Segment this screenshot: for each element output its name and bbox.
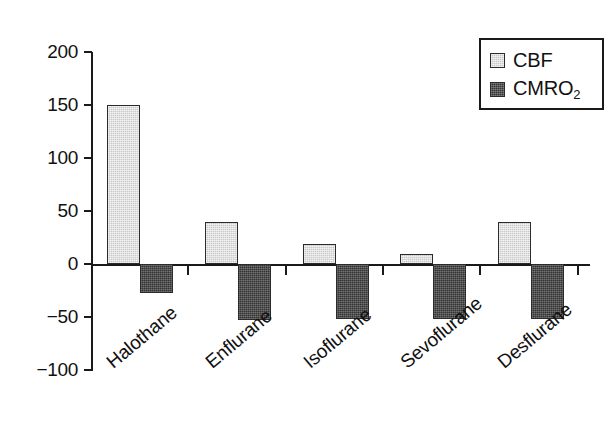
y-tick-label: −100 xyxy=(18,360,78,379)
y-tick-mark xyxy=(84,104,92,106)
y-tick-mark xyxy=(84,316,92,318)
legend-item-cmro2: CMRO2 xyxy=(490,78,580,100)
y-tick-label: 200 xyxy=(18,42,78,61)
y-tick-mark xyxy=(84,157,92,159)
y-tick-mark xyxy=(84,263,92,265)
bar-enflurane-cbf xyxy=(205,222,238,264)
legend-swatch-cmro2-icon xyxy=(490,82,505,97)
bar-isoflurane-cbf xyxy=(303,244,336,264)
legend-swatch-cbf-icon xyxy=(490,53,505,68)
category-label-halothane: Halothane xyxy=(103,302,180,371)
y-tick-label-text: 100 xyxy=(22,148,78,167)
y-tick-label: 50 xyxy=(18,201,78,220)
y-tick-label-text: −100 xyxy=(22,360,78,379)
x-tick-mark xyxy=(577,266,579,275)
legend-label-cmro2-main: CMRO xyxy=(513,77,573,99)
y-tick-label-text: 50 xyxy=(22,201,78,220)
y-tick-mark xyxy=(84,369,92,371)
y-tick-label: 0 xyxy=(18,254,78,273)
x-tick-mark xyxy=(382,266,384,275)
y-tick-label-text: 0 xyxy=(22,254,78,273)
bar-halothane-cmro2 xyxy=(140,264,173,293)
y-tick-label-text: −50 xyxy=(22,307,78,326)
bar-desflurane-cbf xyxy=(498,222,531,264)
bar-chart: 200150100500−50−100 HalothaneEnfluraneIs… xyxy=(0,0,610,431)
legend-item-cbf: CBF xyxy=(490,49,552,71)
legend-label-cmro2-subscript: 2 xyxy=(573,86,580,101)
y-tick-mark xyxy=(84,210,92,212)
x-tick-mark xyxy=(187,266,189,275)
y-tick-label-text: 200 xyxy=(22,42,78,61)
bar-halothane-cbf xyxy=(107,105,140,264)
x-tick-mark xyxy=(479,266,481,275)
y-tick-mark xyxy=(84,51,92,53)
legend-label-cmro2: CMRO2 xyxy=(513,78,580,101)
y-tick-label: 150 xyxy=(18,95,78,114)
legend: CBF CMRO2 xyxy=(479,38,604,110)
y-tick-label: 100 xyxy=(18,148,78,167)
bar-sevoflurane-cbf xyxy=(400,254,433,264)
legend-label-cbf: CBF xyxy=(513,50,552,70)
y-tick-label-text: 150 xyxy=(22,95,78,114)
y-tick-label: −50 xyxy=(18,307,78,326)
x-tick-mark xyxy=(285,266,287,275)
